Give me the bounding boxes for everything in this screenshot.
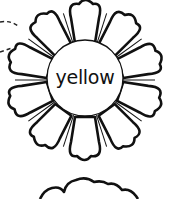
flower-illustration <box>0 0 171 199</box>
flower-2-partial <box>40 178 138 199</box>
flower-center-label: yellow <box>47 62 123 92</box>
